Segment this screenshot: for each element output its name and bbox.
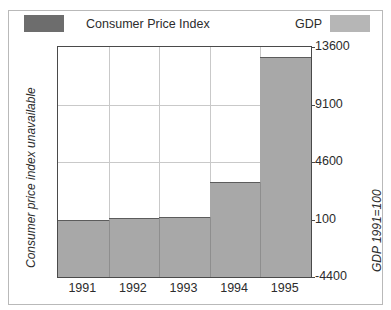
x-tick-label-1995: 1995: [259, 281, 310, 295]
y-tick-label-100: 100: [315, 212, 336, 226]
y-tick-mark: [311, 47, 315, 48]
bar-1995: [260, 57, 311, 277]
y-tick-mark: [311, 277, 315, 278]
bar-separator: [159, 218, 160, 277]
bar-separator: [260, 182, 261, 277]
x-axis: 19911992199319941995: [57, 281, 312, 299]
x-tick-label-1992: 1992: [108, 281, 159, 295]
y-tick-mark: [311, 105, 315, 106]
page-title: GDP and Consumer Price Index: [8, 0, 368, 3]
legend-swatch-cpi: [24, 15, 64, 32]
y-tick-label--4400: -4400: [315, 269, 347, 283]
bar-1991: [58, 220, 109, 278]
bar-separator: [210, 217, 211, 277]
legend-item-gdp: GDP: [295, 15, 370, 32]
bar-1994: [210, 182, 261, 277]
y-tick-label-4600: 4600: [315, 154, 343, 168]
y-tick-label-13600: 13600: [315, 39, 350, 53]
x-tick-label-1991: 1991: [57, 281, 108, 295]
y-axis-right-label: GDP 1991=100: [370, 189, 384, 272]
bar-separator: [109, 220, 110, 278]
y-tick-mark: [311, 220, 315, 221]
legend-item-cpi: Consumer Price Index: [24, 15, 210, 32]
bar-1993: [159, 217, 210, 277]
y-tick-mark: [311, 162, 315, 163]
x-tick-label-1993: 1993: [158, 281, 209, 295]
y-axis-right: 1360091004600100-4400: [315, 40, 363, 290]
legend-swatch-gdp: [330, 15, 370, 32]
bar-1992: [109, 218, 160, 277]
chart-title-clipped: GDP and Consumer Price Index: [8, 0, 368, 3]
y-axis-left-label: Consumer price index unavailable: [24, 87, 38, 268]
chart-legend: Consumer Price Index GDP: [9, 11, 382, 38]
legend-label-gdp: GDP: [295, 17, 322, 31]
y-tick-label-9100: 9100: [315, 97, 343, 111]
x-tick-label-1994: 1994: [209, 281, 260, 295]
plot-area: [57, 46, 312, 278]
legend-label-cpi: Consumer Price Index: [86, 17, 210, 31]
chart-figure: GDP and Consumer Price Index Consumer Pr…: [0, 0, 391, 310]
